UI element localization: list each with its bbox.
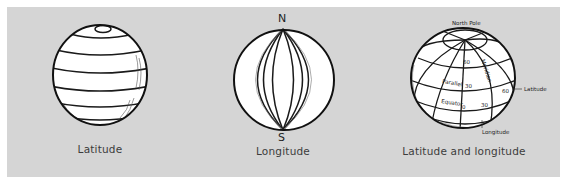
north-pole-label: North Pole: [452, 20, 481, 26]
lat-long-globe-icon: North Pole 60 Meridian Parallel 30 Equat…: [0, 0, 566, 187]
equator-label: Equator: [441, 98, 464, 108]
lon-60-label: 60: [502, 88, 509, 94]
lat-long-figure: North Pole 60 Meridian Parallel 30 Equat…: [0, 0, 566, 187]
lat-long-caption: Latitude and longitude: [400, 145, 528, 157]
lat-60-label: 60: [463, 59, 470, 65]
longitude-callout-label: Longitude: [482, 129, 510, 136]
lat-30-label: 30: [465, 83, 472, 89]
lon-30-label: 30: [481, 102, 488, 108]
meridian-label: Meridian: [480, 58, 493, 83]
parallel-label: Parallel: [442, 78, 463, 87]
latitude-callout-label: Latitude: [524, 86, 547, 92]
lat-0-label: 0: [462, 104, 466, 110]
